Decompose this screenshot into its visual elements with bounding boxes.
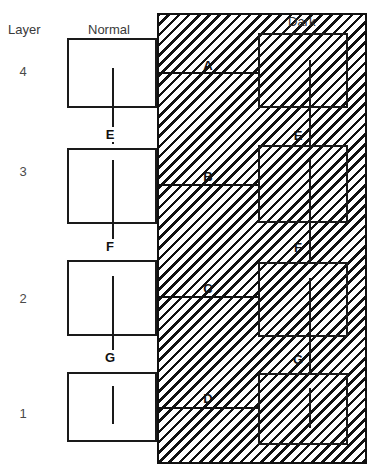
normal-connector-2 [112, 276, 114, 360]
tie-line-b [157, 184, 258, 186]
junction-tag-g-normal: G [103, 350, 117, 365]
region-tag-c: C [202, 281, 214, 296]
junction-tag-e-dark: E [292, 128, 304, 143]
normal-column-header: Normal [88, 22, 130, 37]
dark-column-header: Dark [288, 14, 315, 29]
junction-tag-f-dark: F [292, 240, 304, 255]
layer-number-3: 3 [12, 164, 34, 179]
dark-connector-1 [309, 388, 311, 428]
dark-box-layer-1 [258, 373, 348, 445]
tie-line-d [157, 407, 258, 409]
junction-tag-f-normal: F [103, 239, 117, 254]
normal-connector-1 [112, 386, 114, 424]
junction-tag-e-normal: E [103, 127, 117, 142]
dark-connector-4 [309, 60, 311, 146]
normal-connector-3 [112, 160, 114, 248]
dark-box-layer-2 [258, 262, 348, 337]
dark-box-layer-3 [258, 145, 348, 223]
dark-box-layer-4 [258, 33, 348, 108]
region-tag-b: B [202, 169, 214, 184]
layer-number-1: 1 [12, 406, 34, 421]
tie-line-c [157, 296, 258, 298]
dark-connector-2 [309, 278, 311, 374]
layer-column-header: Layer [8, 22, 41, 37]
region-tag-a: A [202, 58, 214, 73]
dark-connector-3 [309, 160, 311, 264]
region-tag-d: D [202, 391, 214, 406]
junction-tag-g-dark: G [292, 352, 304, 367]
layer-number-2: 2 [12, 291, 34, 306]
layer-structure-diagram: Layer Normal Dark 4321 ABCD EFG EFG [0, 0, 382, 476]
layer-number-4: 4 [12, 64, 34, 79]
